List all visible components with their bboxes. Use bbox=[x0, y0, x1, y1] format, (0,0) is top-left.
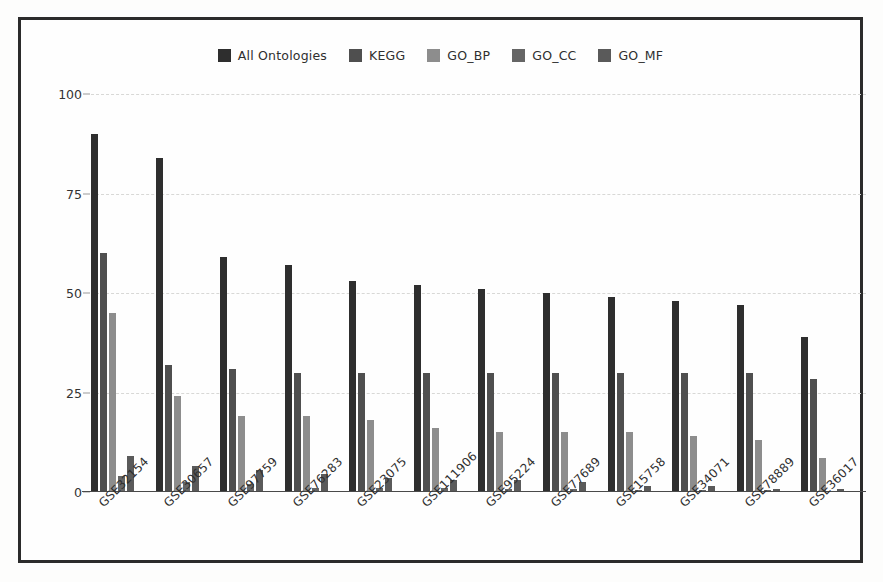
y-tick-label: 0 bbox=[74, 485, 82, 500]
bar-groups bbox=[91, 94, 866, 492]
bar-group bbox=[414, 94, 479, 492]
y-tick-label: 75 bbox=[66, 186, 82, 201]
legend-swatch-icon bbox=[598, 49, 611, 62]
bar-group bbox=[156, 94, 221, 492]
chart-frame: All OntologiesKEGGGO_BPGO_CCGO_MF 025507… bbox=[18, 17, 863, 563]
bar[interactable] bbox=[109, 313, 116, 492]
x-label-cell: GSE111906 bbox=[414, 494, 479, 582]
legend-item[interactable]: KEGG bbox=[349, 48, 405, 63]
bar[interactable] bbox=[608, 297, 615, 492]
bar[interactable] bbox=[294, 373, 301, 492]
legend-item-label: All Ontologies bbox=[238, 48, 327, 63]
legend-swatch-icon bbox=[349, 49, 362, 62]
chart-figure: All OntologiesKEGGGO_BPGO_CCGO_MF 025507… bbox=[0, 0, 883, 582]
bar[interactable] bbox=[801, 337, 808, 492]
legend-item[interactable]: All Ontologies bbox=[218, 48, 327, 63]
bar-group bbox=[285, 94, 350, 492]
bar-group bbox=[478, 94, 543, 492]
y-tick-label: 50 bbox=[66, 286, 82, 301]
bar[interactable] bbox=[229, 369, 236, 492]
bar-group bbox=[801, 94, 866, 492]
y-tick-mark bbox=[83, 193, 90, 194]
bar[interactable] bbox=[487, 373, 494, 492]
legend-swatch-icon bbox=[427, 49, 440, 62]
bar[interactable] bbox=[174, 396, 181, 492]
bar[interactable] bbox=[681, 373, 688, 492]
legend-item[interactable]: GO_BP bbox=[427, 48, 490, 63]
x-label-cell: GSE78889 bbox=[737, 494, 802, 582]
bar[interactable] bbox=[423, 373, 430, 492]
plot-inner: 0255075100 bbox=[91, 94, 866, 492]
legend-item[interactable]: GO_MF bbox=[598, 48, 663, 63]
x-label-cell: GSE97759 bbox=[220, 494, 285, 582]
bar[interactable] bbox=[478, 289, 485, 492]
bar[interactable] bbox=[414, 285, 421, 492]
bar-group bbox=[220, 94, 285, 492]
y-tick-label: 25 bbox=[66, 385, 82, 400]
bar[interactable] bbox=[552, 373, 559, 492]
legend-swatch-icon bbox=[218, 49, 231, 62]
plot-area: 0255075100 bbox=[91, 94, 866, 492]
bar[interactable] bbox=[220, 257, 227, 492]
x-label-cell: GSE23075 bbox=[349, 494, 414, 582]
bar[interactable] bbox=[100, 253, 107, 492]
bar[interactable] bbox=[156, 158, 163, 492]
bar[interactable] bbox=[617, 373, 624, 492]
bar[interactable] bbox=[746, 373, 753, 492]
x-label-cell: GSE76283 bbox=[285, 494, 350, 582]
bar-group bbox=[349, 94, 414, 492]
legend-swatch-icon bbox=[512, 49, 525, 62]
x-label-cell: GSE95224 bbox=[478, 494, 543, 582]
bar[interactable] bbox=[349, 281, 356, 492]
x-axis-labels: GSE32154GSE30657GSE97759GSE76283GSE23075… bbox=[91, 494, 866, 582]
bar-group bbox=[672, 94, 737, 492]
bar-group bbox=[737, 94, 802, 492]
bar[interactable] bbox=[672, 301, 679, 492]
legend-item-label: GO_CC bbox=[532, 48, 576, 63]
bar[interactable] bbox=[358, 373, 365, 492]
legend-item[interactable]: GO_CC bbox=[512, 48, 576, 63]
y-tick-label: 100 bbox=[58, 87, 82, 102]
y-tick-mark bbox=[83, 392, 90, 393]
y-tick-mark bbox=[83, 293, 90, 294]
bar-group bbox=[91, 94, 156, 492]
chart-legend: All OntologiesKEGGGO_BPGO_CCGO_MF bbox=[21, 48, 860, 63]
bar[interactable] bbox=[737, 305, 744, 492]
x-label-cell: GSE30657 bbox=[156, 494, 221, 582]
bar-group bbox=[608, 94, 673, 492]
bar[interactable] bbox=[285, 265, 292, 492]
x-label-cell: GSE32154 bbox=[91, 494, 156, 582]
bar[interactable] bbox=[91, 134, 98, 492]
bar[interactable] bbox=[810, 379, 817, 492]
x-label-cell: GSE15758 bbox=[608, 494, 673, 582]
y-tick-mark bbox=[83, 94, 90, 95]
x-label-cell: GSE77689 bbox=[543, 494, 608, 582]
bar-group bbox=[543, 94, 608, 492]
legend-item-label: KEGG bbox=[369, 48, 405, 63]
legend-item-label: GO_MF bbox=[618, 48, 663, 63]
x-label-cell: GSE34071 bbox=[672, 494, 737, 582]
legend-item-label: GO_BP bbox=[447, 48, 490, 63]
bar[interactable] bbox=[543, 293, 550, 492]
x-label-cell: GSE36017 bbox=[801, 494, 866, 582]
bar[interactable] bbox=[165, 365, 172, 492]
